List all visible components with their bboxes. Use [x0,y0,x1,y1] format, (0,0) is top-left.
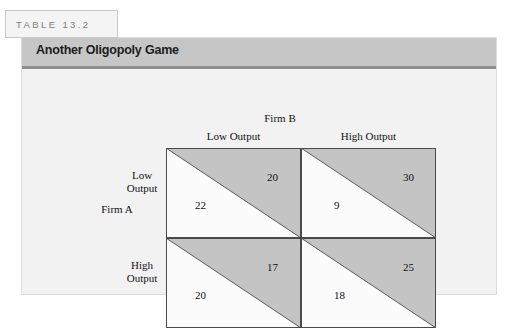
matrix-cell-low-low [166,148,301,238]
column-header-high-output-text: High Output [341,130,396,142]
matrix-cell-low-high [301,148,436,238]
matrix-cell-high-high [301,238,436,328]
column-header-high-output: High Output [301,130,436,143]
table-number-label: TABLE 13.2 [6,19,91,30]
payoff-matrix: 20 22 30 9 17 20 25 18 [166,148,436,328]
table-number-tag: TABLE 13.2 [5,10,118,38]
panel-title: Another Oligopoly Game [36,43,179,57]
row-header-low-output-line2: Output [120,182,164,195]
payoff-high-low-firm-a: 20 [195,289,206,301]
row-header-high-output: High Output [120,259,164,285]
payoff-matrix-figure: Firm B Low Output High Output Firm A Low… [22,69,496,296]
row-group-label-text: Firm A [101,203,132,215]
payoff-matrix-graphic [166,148,436,328]
column-header-low-output-text: Low Output [207,130,260,142]
payoff-high-high-firm-a: 18 [334,289,345,301]
payoff-low-high-firm-b: 30 [403,171,414,183]
payoff-low-low-firm-a: 22 [195,199,206,211]
column-group-label: Firm B [145,112,415,125]
row-header-high-output-line2: Output [120,272,164,285]
row-header-high-output-line1: High [120,259,164,272]
row-group-label: Firm A [82,203,152,216]
column-group-label-text: Firm B [264,112,295,124]
payoff-high-low-firm-b: 17 [267,261,278,273]
table-panel: Another Oligopoly Game Firm B Low Output… [21,37,497,295]
row-header-low-output-line1: Low [120,169,164,182]
payoff-high-high-firm-b: 25 [403,261,414,273]
row-header-low-output: Low Output [120,169,164,195]
matrix-cell-high-low [166,238,301,328]
column-header-low-output: Low Output [166,130,301,143]
payoff-low-high-firm-a: 9 [334,199,340,211]
payoff-low-low-firm-b: 20 [267,171,278,183]
